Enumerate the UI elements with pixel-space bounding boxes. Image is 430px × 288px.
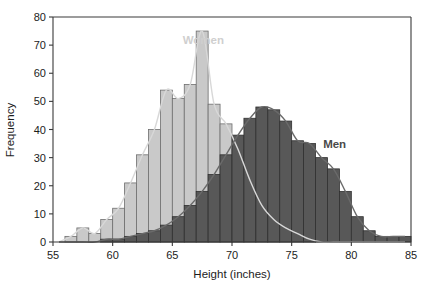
histogram-bar-men — [351, 217, 363, 242]
x-tick-label: 60 — [107, 249, 119, 261]
histogram-bar-men — [280, 121, 292, 242]
histogram-bar-men — [327, 169, 339, 242]
histogram-bar-men — [304, 144, 316, 242]
x-tick-label: 65 — [166, 249, 178, 261]
y-tick-label: 30 — [34, 152, 46, 164]
histogram-bar-men — [196, 191, 208, 242]
histogram-bar-men — [399, 236, 411, 242]
x-tick-label: 55 — [47, 249, 59, 261]
histogram-bar-women — [148, 130, 160, 243]
x-tick-label: 75 — [286, 249, 298, 261]
x-tick-label: 70 — [226, 249, 238, 261]
x-tick-label: 85 — [405, 249, 417, 261]
series-label-men: Men — [323, 138, 346, 150]
histogram-bar-men — [208, 175, 220, 243]
y-tick-label: 20 — [34, 180, 46, 192]
histogram-chart: 0102030405060708055606570758085 WomenMen… — [0, 0, 430, 288]
histogram-bar-men — [316, 158, 328, 242]
y-tick-label: 0 — [40, 236, 46, 248]
histogram-bar-women — [160, 90, 172, 242]
histogram-bar-women — [137, 155, 149, 242]
histogram-bar-men — [184, 205, 196, 242]
y-tick-label: 70 — [34, 39, 46, 51]
histogram-bar-men — [220, 155, 232, 242]
y-tick-label: 60 — [34, 67, 46, 79]
histogram-bar-men — [292, 141, 304, 242]
histogram-bar-men — [363, 231, 375, 242]
y-tick-label: 40 — [34, 124, 46, 136]
x-tick-label: 80 — [345, 249, 357, 261]
series-label-women: Women — [183, 34, 224, 46]
histogram-bar-men — [232, 135, 244, 242]
y-tick-label: 10 — [34, 208, 46, 220]
y-tick-label: 80 — [34, 11, 46, 23]
y-tick-label: 50 — [34, 95, 46, 107]
x-axis-title: Height (inches) — [193, 268, 271, 280]
y-axis-title: Frequency — [4, 103, 16, 158]
histogram-bar-men — [256, 107, 268, 242]
chart-figure: 0102030405060708055606570758085 WomenMen… — [0, 0, 430, 288]
